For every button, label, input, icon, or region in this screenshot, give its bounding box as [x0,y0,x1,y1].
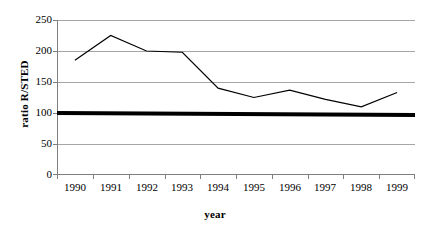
x-tickmark-8 [343,175,344,179]
x-axis-title: year [0,208,430,220]
x-tickmark-2 [129,175,130,179]
line-chart: ratio R/STED 250 200 150 100 50 0 [0,0,430,240]
x-tickmark-3 [165,175,166,179]
x-tickmark-6 [272,175,273,179]
y-tick-label-0: 0 [18,169,52,180]
x-tickmark-0 [57,175,58,179]
x-tickmark-10 [414,175,415,179]
y-tick-label-200: 200 [18,45,52,56]
x-tickmark-1 [93,175,94,179]
data-series-line [75,36,397,107]
x-tickmark-5 [236,175,237,179]
x-tickmark-7 [308,175,309,179]
y-tick-label-50: 50 [18,138,52,149]
x-tick-label-1999: 1999 [375,181,419,193]
x-tickmark-4 [200,175,201,179]
x-tickmark-9 [379,175,380,179]
y-tick-label-250: 250 [18,14,52,25]
reference-level-line [57,113,415,115]
plot-area [57,20,415,175]
y-tick-label-150: 150 [18,76,52,87]
y-tick-label-100: 100 [18,107,52,118]
series-layer [57,20,415,175]
